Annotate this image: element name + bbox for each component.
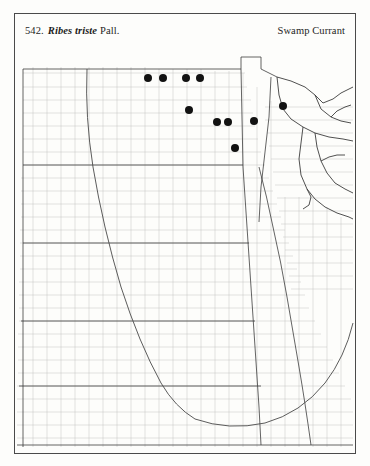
great-lakes-coastline bbox=[277, 77, 353, 219]
state-boundaries bbox=[17, 57, 353, 447]
distribution-map bbox=[15, 47, 355, 453]
map-linework bbox=[15, 47, 355, 453]
scientific-name: Ribes triste bbox=[44, 25, 97, 36]
plate-header: 542.Ribes tristePall. Swamp Currant bbox=[15, 14, 355, 46]
common-name: Swamp Currant bbox=[278, 25, 346, 36]
atlas-plate-page: 542.Ribes tristePall. Swamp Currant bbox=[0, 0, 370, 466]
taxon-caption: 542.Ribes tristePall. bbox=[25, 25, 120, 36]
entry-number: 542. bbox=[25, 25, 44, 36]
taxon-authority: Pall. bbox=[97, 25, 119, 36]
